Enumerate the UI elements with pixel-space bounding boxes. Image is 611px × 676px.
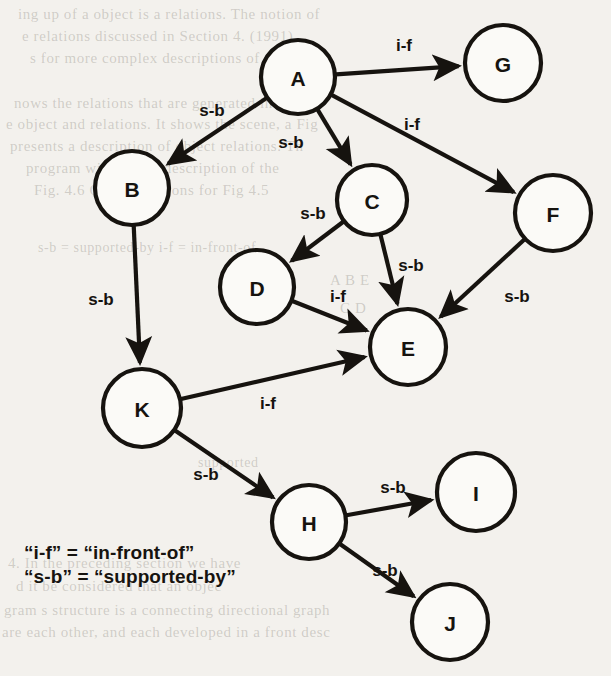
node-i: I: [437, 453, 515, 531]
edge-h-to-i: [346, 500, 431, 515]
node-e: E: [370, 309, 446, 385]
node-g: G: [465, 25, 541, 101]
node-h: H: [272, 485, 346, 559]
edge-k-to-h: [175, 431, 273, 498]
node-label-k: K: [134, 398, 149, 421]
node-label-a: A: [290, 67, 305, 90]
legend-line-sb: “s-b” = “supported-by”: [24, 565, 236, 589]
edge-label-a-g: i-f: [396, 36, 412, 55]
legend: “i-f” = “in-front-of” “s-b” = “supported…: [24, 541, 236, 590]
edge-label-a-b: s-b: [199, 101, 225, 120]
node-label-d: D: [249, 277, 264, 300]
node-f: F: [515, 175, 591, 251]
node-label-g: G: [495, 53, 511, 76]
node-label-j: J: [444, 612, 456, 635]
node-c: C: [337, 165, 407, 235]
node-label-b: B: [124, 178, 139, 201]
edge-label-d-e: i-f: [330, 287, 346, 306]
node-label-h: H: [301, 512, 316, 535]
edge-b-to-k: [134, 226, 140, 363]
edge-c-to-d: [292, 222, 344, 261]
edge-label-k-h: s-b: [193, 465, 219, 484]
node-b: B: [95, 151, 169, 225]
edge-label-h-j: s-b: [372, 561, 398, 580]
edge-label-f-e: s-b: [504, 287, 530, 306]
edge-label-a-c: s-b: [278, 133, 304, 152]
edge-a-to-c: [318, 110, 351, 165]
node-label-e: E: [401, 337, 415, 360]
edge-c-to-e: [381, 235, 398, 304]
edge-label-c-e: s-b: [398, 256, 424, 275]
node-label-i: I: [473, 482, 479, 505]
edge-label-a-f: i-f: [404, 115, 420, 134]
edge-label-k-e: i-f: [260, 394, 276, 413]
edge-label-h-i: s-b: [380, 478, 406, 497]
node-d: D: [220, 250, 294, 324]
node-j: J: [412, 584, 488, 660]
node-label-c: C: [364, 190, 379, 213]
edge-a-to-g: [336, 66, 459, 74]
edge-label-c-d: s-b: [300, 204, 326, 223]
edge-label-b-k: s-b: [88, 290, 114, 309]
node-a: A: [261, 40, 335, 114]
node-label-f: F: [547, 203, 560, 226]
node-k: K: [103, 369, 181, 447]
legend-line-if: “i-f” = “in-front-of”: [24, 541, 236, 565]
figure-page: ing up of a object is a relations. The n…: [0, 0, 611, 676]
